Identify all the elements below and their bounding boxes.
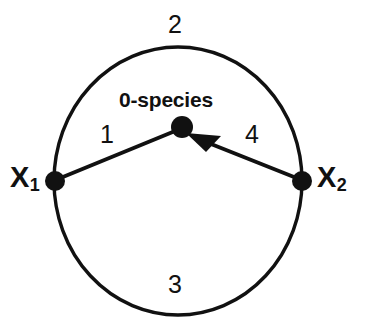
node-label-x1-subscript: 1 [30, 175, 40, 195]
edge-1-line [58, 129, 180, 179]
node-x2-dot [292, 171, 312, 191]
node-label-x1-base: X [10, 161, 29, 193]
edge-label-4: 4 [245, 122, 259, 147]
node-label-x2: X2 [317, 163, 347, 194]
node-label-center: 0-species [119, 89, 213, 110]
edge-label-1: 1 [100, 122, 114, 147]
arc-label-2: 2 [168, 12, 182, 37]
node-x1-dot [45, 171, 65, 191]
edge-4-arrowhead [186, 133, 221, 152]
arc-label-3: 3 [168, 272, 182, 297]
node-label-x1: X1 [10, 163, 40, 194]
diagram-canvas: 2 3 1 4 X1 X2 0-species [0, 0, 368, 332]
node-label-x2-subscript: 2 [337, 175, 347, 195]
cycle-diagram-svg [0, 0, 368, 332]
node-label-x2-base: X [317, 161, 336, 193]
node-center-dot [171, 116, 193, 138]
